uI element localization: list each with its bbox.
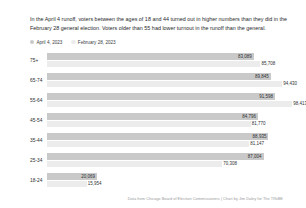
bar-value-label: 20,069 [72,174,95,179]
bar-chart-plot: 75+83,08985,70865-7489,84594,43055-6491,… [30,50,296,190]
bar [47,121,251,128]
bar-group: 20,06915,954 [47,170,296,190]
bar-group: 88,93581,147 [47,130,296,150]
bar-item[interactable]: 70,308 [47,161,237,168]
chart-row: 18-2420,06915,954 [30,170,296,190]
category-label: 25-34 [30,158,47,163]
bar-value-label: 84,796 [233,114,256,119]
category-label: 35-44 [30,138,47,143]
bar-value-label: 85,708 [260,61,275,66]
chart-row: 55-6491,59898,413 [30,90,296,110]
bar-group: 87,00470,308 [47,150,296,170]
chart-row: 75+83,08985,708 [30,50,296,70]
bar-item[interactable]: 88,935 [47,133,266,140]
category-label: 18-24 [30,178,47,183]
bar [47,93,275,100]
bar-value-label: 94,430 [282,81,297,86]
category-label: 65-74 [30,78,47,83]
bar-item[interactable]: 98,413 [47,101,306,108]
bar-item[interactable]: 87,004 [47,153,262,160]
category-label: 45-54 [30,118,47,123]
bar-value-label: 81,147 [249,141,264,146]
legend-swatch-february [71,40,75,44]
category-label: 55-64 [30,98,47,103]
bar [47,181,87,188]
bar-value-label: 87,004 [239,154,262,159]
bar [47,153,264,160]
chart-row: 65-7489,84594,430 [30,70,296,90]
bar-item[interactable]: 94,430 [47,81,297,88]
bar-item[interactable]: 84,796 [47,113,256,120]
bar [47,101,292,108]
chart-legend: April 4, 2023 February 28, 2023 [30,40,116,45]
bar-group: 84,79681,770 [47,110,296,130]
bar-item[interactable]: 15,954 [47,181,102,188]
bar-value-label: 81,770 [250,121,265,126]
bar-item[interactable]: 83,089 [47,53,252,60]
bar-group: 89,84594,430 [47,70,296,90]
bar [47,61,260,68]
bar [47,161,222,168]
bar-item[interactable]: 81,147 [47,141,264,148]
bar-item[interactable]: 89,845 [47,73,269,80]
bar-value-label: 91,598 [250,94,273,99]
bar-item[interactable]: 81,770 [47,121,266,128]
bar [47,133,268,140]
chart-row: 35-4488,93581,147 [30,130,296,150]
bar-item[interactable]: 20,069 [47,173,95,180]
legend-item-april[interactable]: April 4, 2023 [30,40,62,45]
bar-item[interactable]: 85,708 [47,61,275,68]
category-label: 75+ [30,58,47,63]
bar-group: 83,08985,708 [47,50,296,70]
bar-value-label: 98,413 [292,101,306,106]
bar-value-label: 70,308 [222,161,237,166]
bar-value-label: 88,935 [243,134,266,139]
bar [47,113,258,120]
bar-value-label: 83,089 [229,54,252,59]
chart-credit: Data from Chicago Board of Election Comm… [9,196,283,201]
bar [47,73,271,80]
chart-description: In the April 4 runoff, voters between th… [30,15,296,34]
legend-label-february: February 28, 2023 [78,40,116,45]
bar-group: 91,59898,413 [47,90,296,110]
bar-value-label: 89,845 [246,74,269,79]
legend-item-february[interactable]: February 28, 2023 [71,40,115,45]
chart-frame: In the April 4 runoff, voters between th… [9,6,297,202]
bar [47,53,254,60]
chart-row: 45-5484,79681,770 [30,110,296,130]
legend-swatch-april [30,40,34,44]
bar-item[interactable]: 91,598 [47,93,273,100]
legend-label-april: April 4, 2023 [36,40,62,45]
bar [47,81,282,88]
bar [47,141,249,148]
chart-row: 25-3487,00470,308 [30,150,296,170]
bar-value-label: 15,954 [86,181,101,186]
chart-page: In the April 4 runoff, voters between th… [0,0,306,208]
